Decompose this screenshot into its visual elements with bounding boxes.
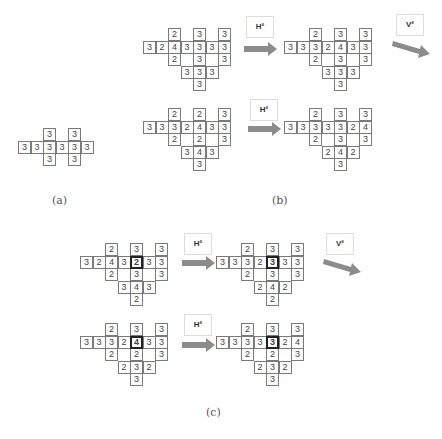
grid-cell: 3 [218, 53, 231, 66]
grid-cell: 4 [334, 41, 347, 54]
operator-h2-b-bottom: H² [250, 99, 278, 121]
grid-cell: 2 [168, 133, 181, 146]
grid-cell: 4 [359, 121, 372, 134]
grid-cell: 3 [347, 66, 360, 79]
grid-cell: 2 [279, 336, 292, 349]
grid-cell: 3 [206, 41, 219, 54]
grid-cell: 2 [266, 293, 279, 306]
grid-cell: 3 [291, 256, 304, 269]
grid-cell: 2 [279, 361, 292, 374]
grid-cell: 3 [31, 141, 44, 154]
grid-cell: 2 [241, 323, 254, 336]
grid-cell: 3 [266, 323, 279, 336]
grid-cell: 3 [68, 128, 81, 141]
grid-cell: 3 [359, 133, 372, 146]
grid-cell: 2 [347, 146, 360, 159]
grid-cell: 2 [130, 348, 143, 361]
grid-cell: 4 [130, 281, 143, 294]
grid-cell: 3 [43, 153, 56, 166]
panel-label-b: (b) [272, 194, 288, 207]
grid-cell: 3 [130, 268, 143, 281]
grid-cell: 2 [118, 361, 131, 374]
operator-h2-b-top: H² [246, 16, 274, 38]
grid-cell: 3 [334, 158, 347, 171]
grid-cell: 3 [266, 243, 279, 256]
grid-cell: 3 [322, 121, 335, 134]
grid-cell: 3 [130, 373, 143, 386]
grid-cell: 3 [193, 41, 206, 54]
grid-cell: 3 [291, 243, 304, 256]
grid-cell: 2 [254, 361, 267, 374]
grid-cell: 3 [229, 256, 242, 269]
grid-cell: 2 [309, 133, 322, 146]
grid-cell: 3 [334, 53, 347, 66]
grid-cell: 2 [168, 53, 181, 66]
operator-h2-c-bottom: H² [184, 314, 212, 336]
grid-cell: 2 [254, 281, 267, 294]
grid-cell: 2 [193, 133, 206, 146]
grid-cell: 3 [334, 28, 347, 41]
grid-cell: 3 [266, 361, 279, 374]
grid-cell: 3 [130, 361, 143, 374]
grid-cell: 3 [241, 256, 254, 269]
grid-cell: 3 [68, 141, 81, 154]
grid-cell: 3 [206, 121, 219, 134]
grid-cell: 3 [43, 141, 56, 154]
arrow-diagonal-icon [392, 36, 432, 64]
grid-cell: 3 [168, 121, 181, 134]
grid-cell: 3 [181, 66, 194, 79]
grid-cell: 3 [81, 141, 94, 154]
grid-cell: 3 [130, 243, 143, 256]
grid-cell: 3 [266, 268, 279, 281]
grid-cell: 3 [155, 256, 168, 269]
grid-cell: 4 [334, 146, 347, 159]
grid-cell: 4 [168, 41, 181, 54]
arrow-right-icon [248, 122, 282, 140]
grid-cell: 2 [181, 121, 194, 134]
operator-v2-c-top: V² [326, 233, 354, 255]
grid-cell: 3 [297, 41, 310, 54]
grid-cell: 2 [322, 146, 335, 159]
grid-cell: 4 [266, 281, 279, 294]
operator-v2-b-top: V² [396, 14, 424, 36]
grid-cell: 3 [359, 108, 372, 121]
grid-cell: 3 [359, 41, 372, 54]
grid-cell: 3 [143, 41, 156, 54]
grid-cell: 3 [80, 336, 93, 349]
grid-cell: 3 [229, 336, 242, 349]
grid-cell: 3 [156, 121, 169, 134]
grid-cell: 2 [309, 108, 322, 121]
grid-cell: 3 [218, 133, 231, 146]
grid-cell: 3 [334, 121, 347, 134]
grid-cell: 2 [105, 268, 118, 281]
grid-cell: 2 [156, 41, 169, 54]
arrow-right-icon [244, 42, 278, 60]
grid-cell: 2 [241, 268, 254, 281]
grid-cell: 3 [347, 41, 360, 54]
grid-cell: 3 [155, 243, 168, 256]
grid-cell: 3 [80, 256, 93, 269]
grid-cell: 3 [309, 41, 322, 54]
grid-cell: 3 [130, 323, 143, 336]
grid-cell: 3 [155, 336, 168, 349]
grid-cell: 3 [181, 41, 194, 54]
grid-cell: 3 [254, 336, 267, 349]
grid-cell: 3 [118, 256, 131, 269]
grid-cell: 4 [193, 146, 206, 159]
grid-cell: 2 [105, 323, 118, 336]
grid-cell: 3 [206, 66, 219, 79]
grid-cell: 3 [155, 268, 168, 281]
grid-cell: 4 [291, 336, 304, 349]
highlighted-grid-cell: 2 [130, 256, 143, 269]
grid-cell: 2 [309, 53, 322, 66]
arrow-right-icon [182, 338, 216, 356]
grid-cell: 3 [143, 281, 156, 294]
grid-cell: 2 [168, 108, 181, 121]
highlighted-grid-cell: 4 [130, 336, 143, 349]
grid-cell: 2 [93, 256, 106, 269]
grid-cell: 3 [291, 323, 304, 336]
grid-cell: 3 [93, 336, 106, 349]
grid-cell: 3 [297, 121, 310, 134]
grid-cell: 3 [309, 121, 322, 134]
grid-cell: 3 [218, 41, 231, 54]
